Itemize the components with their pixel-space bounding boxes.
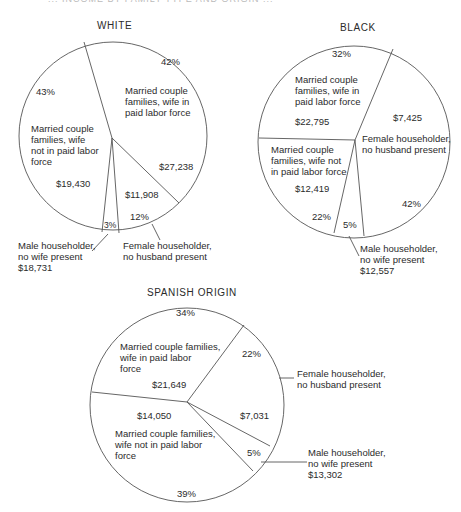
white-female-label: Female householder, no husband present xyxy=(123,240,212,262)
spanish-chart-title: SPANISH ORIGIN xyxy=(147,287,237,298)
black-wife-not-percent: 22% xyxy=(312,211,331,222)
spanish-wife-in-label: Married couple families, wife in paid la… xyxy=(120,341,220,374)
spanish-divider-left xyxy=(92,392,187,402)
white-male-label: Male householder, no wife present $18,73… xyxy=(18,240,96,273)
spanish-female-label: Female householder, no husband present xyxy=(297,368,386,390)
white-divider-bottom-right xyxy=(112,138,119,233)
black-wife-not-label: Married couple families, wife not in pai… xyxy=(271,144,347,177)
white-chart-title: WHITE xyxy=(97,20,132,31)
white-wife-in-percent: 42% xyxy=(161,56,180,67)
black-wife-in-label: Married couple families, wife in paid la… xyxy=(295,74,360,107)
spanish-pie-outline xyxy=(90,308,284,502)
black-female-label: Female householder, no husband present xyxy=(362,133,451,155)
spanish-wife-in-percent: 34% xyxy=(176,307,195,318)
spanish-female-percent: 22% xyxy=(242,348,261,359)
white-female-leader xyxy=(152,224,160,240)
white-divider-bottom-left xyxy=(102,138,112,232)
white-wife-not-income: $19,430 xyxy=(56,178,90,189)
spanish-male-label: Male householder, no wife present $13,30… xyxy=(308,447,386,480)
black-chart-title: BLACK xyxy=(340,22,376,33)
black-wife-in-percent: 32% xyxy=(332,48,351,59)
black-female-percent: 42% xyxy=(402,198,421,209)
black-male-label: Male householder, no wife present $12,55… xyxy=(360,243,438,276)
white-wife-not-percent: 43% xyxy=(36,86,55,97)
spanish-female-income: $7,031 xyxy=(240,410,269,421)
black-wife-not-income: $12,419 xyxy=(295,183,329,194)
spanish-wife-not-label: Married couple families, wife not in pai… xyxy=(115,428,215,461)
white-female-percent: 12% xyxy=(130,211,149,222)
spanish-wife-in-income: $21,649 xyxy=(152,379,186,390)
spanish-wife-not-percent: 39% xyxy=(177,488,196,499)
black-male-percent: 5% xyxy=(343,219,357,230)
black-divider-left xyxy=(259,138,355,140)
spanish-male-percent: 5% xyxy=(247,447,261,458)
spanish-wife-not-income: $14,050 xyxy=(137,410,171,421)
white-wife-not-label: Married couple families, wife not in pai… xyxy=(31,123,99,167)
black-wife-in-income: $22,795 xyxy=(295,116,329,127)
black-male-leader xyxy=(349,236,359,256)
white-wife-in-income: $27,238 xyxy=(159,161,193,172)
black-divider-top-right xyxy=(355,49,393,140)
white-female-income: $11,908 xyxy=(125,189,159,200)
white-male-percent: 3% xyxy=(104,220,116,231)
black-female-income: $7,425 xyxy=(393,112,422,123)
white-wife-in-label: Married couple families, wife in paid la… xyxy=(125,85,190,118)
